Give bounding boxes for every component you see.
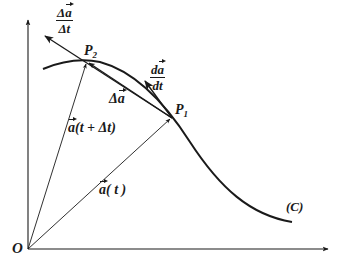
origin-label: O — [12, 241, 23, 256]
point-p1-label: P1 — [175, 103, 188, 119]
delta-a-label: Δa — [109, 92, 125, 106]
derivative-numerator: da — [150, 63, 165, 78]
vector-a-t-plus-dt — [28, 64, 86, 249]
vector-a-t-plus-dt-label: a(t + Δt) — [68, 121, 116, 135]
derivative-label: da dt — [150, 63, 165, 92]
curve-label: (C) — [286, 200, 303, 213]
curve-c — [43, 60, 292, 222]
point-p2-label: P2 — [84, 44, 97, 60]
derivative-denominator: dt — [152, 78, 162, 92]
avg-rate-label: Δa Δt — [56, 6, 73, 35]
avg-rate-denominator: Δt — [58, 21, 70, 35]
avg-rate-numerator: Δa — [56, 6, 73, 21]
vector-a-t-label: a( t ) — [99, 183, 126, 197]
diagram-canvas — [0, 0, 338, 270]
